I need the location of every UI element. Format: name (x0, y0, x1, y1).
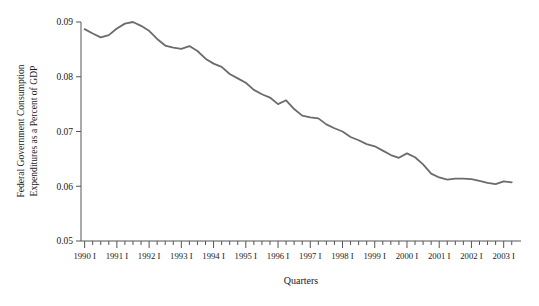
x-axis-tick-label: 1999 I (364, 251, 387, 261)
x-axis-tick-label: 1997 I (299, 251, 322, 261)
x-axis-tick-label: 2003 I (492, 251, 515, 261)
y-axis-title-line-1: Federal Government Consumption (15, 64, 26, 197)
y-axis-tick-label: 0.09 (56, 17, 73, 27)
x-axis-tick-label: 1998 I (331, 251, 354, 261)
line-chart: 0.050.060.070.080.09 1990 I1991 I1992 I1… (0, 0, 539, 306)
x-axis-tick-label: 1994 I (202, 251, 225, 261)
x-axis-tick-label: 2001 I (428, 251, 451, 261)
x-axis-title: Quarters (284, 275, 319, 286)
y-axis-tick-label: 0.08 (56, 72, 73, 82)
chart-axes (81, 22, 521, 241)
y-axis-tick-labels: 0.050.060.070.080.09 (56, 17, 73, 246)
x-axis-tick-label: 1995 I (235, 251, 258, 261)
x-axis-tick-label: 1996 I (267, 251, 290, 261)
data-series-line (85, 22, 512, 184)
y-axis-title: Federal Government Consumption Expenditu… (15, 64, 39, 197)
y-axis-tick-label: 0.07 (56, 127, 73, 137)
y-axis-title-line-2: Expenditures as a Percent of GDP (28, 66, 39, 197)
x-axis-tick-label: 1991 I (106, 251, 129, 261)
x-axis-tick-label: 1992 I (138, 251, 161, 261)
chart-figure: 0.050.060.070.080.09 1990 I1991 I1992 I1… (0, 0, 539, 306)
x-axis-tick-labels: 1990 I1991 I1992 I1993 I1994 I1995 I1996… (73, 251, 515, 261)
x-axis-tick-label: 1993 I (170, 251, 193, 261)
y-axis-tick-label: 0.06 (56, 182, 73, 192)
y-axis-ticks (76, 22, 81, 241)
x-axis-ticks (85, 241, 512, 248)
y-axis-tick-label: 0.05 (56, 236, 73, 246)
x-axis-tick-label: 1990 I (73, 251, 96, 261)
x-axis-tick-label: 2002 I (460, 251, 483, 261)
x-axis-tick-label: 2000 I (396, 251, 419, 261)
